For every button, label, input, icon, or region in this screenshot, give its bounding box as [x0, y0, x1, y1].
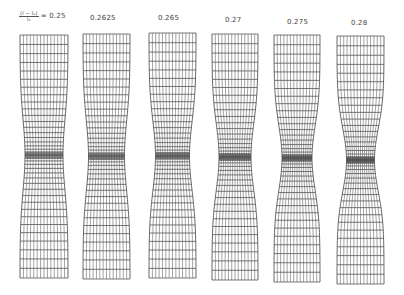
- specimen-label-5: 0.275: [287, 18, 308, 26]
- specimen-mesh-5: [274, 35, 320, 282]
- specimen-mesh-1: [20, 35, 68, 278]
- neck-band: [89, 153, 125, 159]
- neck-band: [219, 154, 251, 160]
- specimen-mesh-4: [212, 34, 258, 280]
- strain-fraction: (l − l₀) l₀: [19, 11, 39, 22]
- neck-band: [347, 157, 375, 163]
- specimen-label-1: (l − l₀) l₀ = 0.25: [19, 11, 66, 22]
- neck-band: [156, 153, 190, 159]
- specimen-label-6: 0.28: [351, 19, 367, 27]
- specimen-label-3: 0.265: [158, 14, 179, 22]
- specimen-label-4: 0.27: [225, 16, 241, 24]
- necking-figure: (l − l₀) l₀ = 0.25 0.2625 0.265 0.27 0.2…: [0, 0, 404, 295]
- neck-band: [282, 155, 312, 161]
- specimen-meshes: [0, 0, 404, 295]
- neck-band: [25, 152, 63, 158]
- specimen-mesh-3: [149, 33, 196, 278]
- specimen-label-2: 0.2625: [90, 14, 116, 22]
- specimen-mesh-6: [337, 36, 384, 284]
- specimen-mesh-2: [83, 34, 130, 279]
